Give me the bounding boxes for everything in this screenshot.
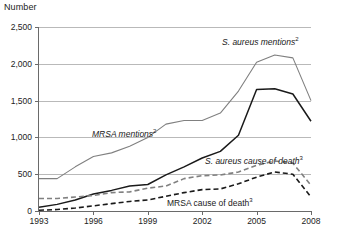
x-tick-mark	[257, 211, 258, 215]
series-label-mrsa-death: MRSA cause of death3	[167, 197, 253, 208]
series-label-mrsa-mentions: MRSA mentions2	[92, 128, 156, 139]
y-axis-title: Number	[4, 2, 37, 12]
x-tick-label: 1993	[19, 216, 59, 226]
series-line-s-aureus-cause-of-death	[39, 161, 311, 199]
y-tick-label: 500	[0, 169, 32, 179]
chart-figure: Number 05001,0001,5002,0002,500 19931996…	[0, 0, 339, 241]
y-tick-mark	[35, 174, 39, 175]
y-tick-label: 1,000	[0, 132, 32, 142]
y-tick-label: 0	[0, 206, 32, 216]
series-label-text: S. aureus cause of death	[205, 156, 300, 166]
series-label-text: S. aureus mentions	[222, 37, 295, 47]
x-tick-mark	[39, 211, 40, 215]
x-tick-mark	[148, 211, 149, 215]
plot-area	[39, 27, 311, 211]
y-tick-label: 2,500	[0, 22, 32, 32]
series-label-s-aureus-mentions: S. aureus mentions2	[222, 36, 299, 47]
x-tick-label: 2008	[291, 216, 331, 226]
y-tick-label: 2,000	[0, 59, 32, 69]
y-tick-mark	[35, 64, 39, 65]
x-tick-mark	[93, 211, 94, 215]
x-tick-mark	[202, 211, 203, 215]
x-tick-label: 2005	[237, 216, 277, 226]
y-tick-label: 1,500	[0, 96, 32, 106]
x-axis-line	[38, 211, 311, 212]
x-tick-label: 2002	[182, 216, 222, 226]
series-label-s-aureus-death: S. aureus cause of death3	[205, 155, 303, 166]
x-tick-label: 1999	[128, 216, 168, 226]
series-label-text: MRSA cause of death	[167, 198, 249, 208]
series-line-mrsa-mentions	[39, 89, 311, 208]
y-tick-mark	[35, 101, 39, 102]
series-label-footnote: 3	[249, 197, 252, 203]
series-lines	[39, 27, 311, 211]
y-tick-mark	[35, 27, 39, 28]
series-label-text: MRSA mentions	[92, 129, 153, 139]
y-tick-mark	[35, 137, 39, 138]
x-tick-label: 1996	[73, 216, 113, 226]
series-label-footnote: 2	[295, 36, 298, 42]
series-label-footnote: 2	[153, 128, 156, 134]
series-label-footnote: 3	[300, 155, 303, 161]
x-tick-mark	[311, 211, 312, 215]
